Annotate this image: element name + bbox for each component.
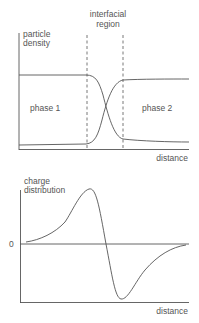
y-axis-label-line2: density — [23, 38, 51, 48]
charge-distribution-panel: charge distribution 0 distance — [9, 176, 189, 316]
particle-density-panel: interfacial region particle density phas… — [19, 9, 189, 163]
y-axis-label-line2: distribution — [24, 185, 65, 195]
diagram-canvas: interfacial region particle density phas… — [0, 0, 199, 323]
phase2-label: phase 2 — [142, 103, 173, 113]
interfacial-region-label-line2: region — [96, 19, 120, 29]
x-axis-label: distance — [156, 306, 188, 316]
x-axis-label: distance — [156, 153, 188, 163]
phase1-label: phase 1 — [30, 103, 61, 113]
zero-tick-label: 0 — [9, 239, 14, 249]
interfacial-region-label-line1: interfacial — [90, 9, 126, 19]
